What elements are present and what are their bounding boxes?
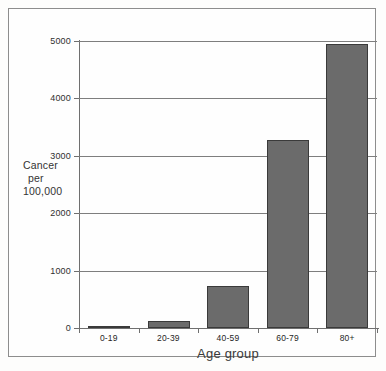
y-tick-label-3000: 3000 <box>25 151 71 161</box>
x-category-label-80-plus: 80+ <box>317 333 377 343</box>
bar-slot-0-19 <box>79 41 139 328</box>
bar-slot-80-plus <box>317 41 377 328</box>
x-category-label-20-39: 20-39 <box>139 333 199 343</box>
y-tick-label-4000: 4000 <box>25 93 71 103</box>
x-category-label-40-59: 40-59 <box>198 333 258 343</box>
chart-frame: Cancer per 100,000 5000 4000 3000 2000 1… <box>8 8 376 357</box>
bar-80-plus[interactable] <box>326 44 368 328</box>
y-tick-label-1000: 1000 <box>25 266 71 276</box>
x-tick-mark-5 <box>377 328 378 333</box>
y-axis-title-line-2: per <box>23 172 79 185</box>
y-axis-title: Cancer per 100,000 <box>23 159 79 198</box>
bar-slot-40-59 <box>198 41 258 328</box>
bar-20-39[interactable] <box>148 321 190 328</box>
x-axis-line <box>79 328 379 329</box>
y-tick-label-5000: 5000 <box>25 36 71 46</box>
bar-slot-60-79 <box>258 41 318 328</box>
bar-60-79[interactable] <box>267 140 309 328</box>
x-axis-title: Age group <box>79 346 377 361</box>
y-tick-label-0: 0 <box>25 323 71 333</box>
y-axis-title-line-3: 100,000 <box>23 185 79 198</box>
x-category-label-60-79: 60-79 <box>258 333 318 343</box>
bar-slot-20-39 <box>139 41 199 328</box>
bar-40-59[interactable] <box>207 286 249 328</box>
x-category-label-0-19: 0-19 <box>79 333 139 343</box>
plot-area <box>79 41 377 328</box>
chart-page: Cancer per 100,000 5000 4000 3000 2000 1… <box>0 0 386 371</box>
y-tick-label-2000: 2000 <box>25 208 71 218</box>
bar-0-19[interactable] <box>88 326 130 328</box>
